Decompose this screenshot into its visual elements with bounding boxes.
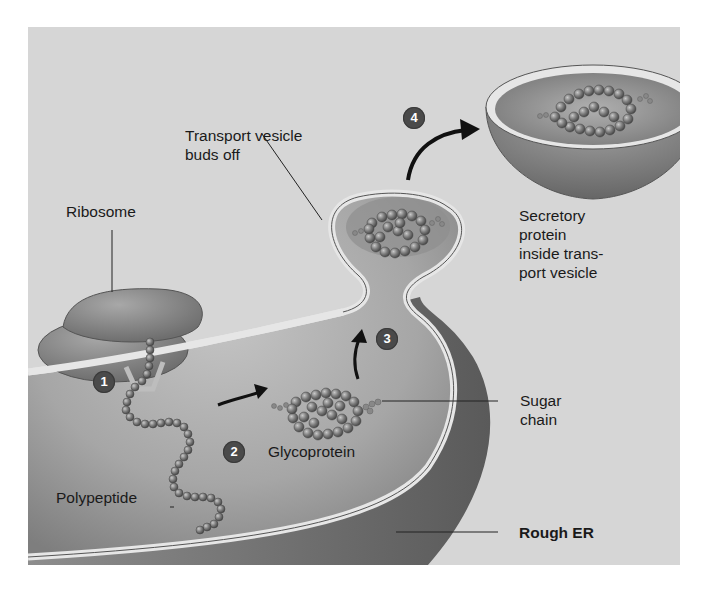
arrow-step-4 xyxy=(408,130,466,180)
step-badge-2: 2 xyxy=(223,441,245,463)
label-ribosome: Ribosome xyxy=(66,202,136,221)
label-rough-er: Rough ER xyxy=(519,523,594,542)
label-polypeptide: Polypeptide xyxy=(56,488,137,507)
label-glycoprotein: Glycoprotein xyxy=(268,442,355,461)
label-sugar-chain: Sugar chain xyxy=(520,391,561,429)
ribosome-small-subunit xyxy=(63,289,202,342)
label-transport-vesicle: Transport vesicle buds off xyxy=(185,126,302,164)
step-badge-3: 3 xyxy=(376,328,398,350)
figure-panel: Transport vesicle buds off Ribosome Secr… xyxy=(28,27,680,565)
rough-er-illustration xyxy=(28,27,680,565)
step-badge-1: 1 xyxy=(93,371,115,393)
step-badge-4: 4 xyxy=(403,107,425,129)
label-secretory-protein: Secretory protein inside trans- port ves… xyxy=(519,206,603,282)
